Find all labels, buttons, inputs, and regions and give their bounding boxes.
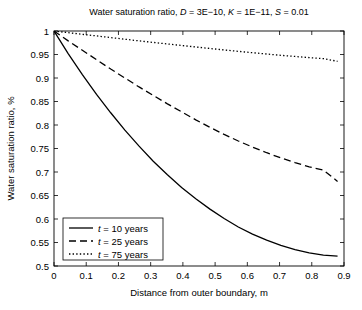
x-tick-label: 0.9 <box>337 270 350 281</box>
y-tick-label: 0.6 <box>36 214 49 225</box>
y-tick-label: 1 <box>44 26 49 37</box>
x-tick-label: 0.6 <box>241 270 254 281</box>
y-tick-label: 0.95 <box>31 49 50 60</box>
y-axis-label: Water saturation ratio, % <box>5 96 16 201</box>
y-tick-label: 0.85 <box>31 96 50 107</box>
x-tick-label: 0.8 <box>305 270 318 281</box>
y-tick-label: 0.65 <box>31 190 50 201</box>
y-tick-label: 0.5 <box>36 261 49 272</box>
y-tick-label: 0.8 <box>36 120 49 131</box>
y-tick-label: 0.55 <box>31 237 50 248</box>
x-tick-label: 0.3 <box>144 270 157 281</box>
x-axis-label: Distance from outer boundary, m <box>130 287 268 298</box>
water-saturation-chart: Water saturation ratio, D = 3E−10, K = 1… <box>0 0 362 310</box>
legend-label-3: t = 75 years <box>98 249 148 260</box>
y-tick-label: 0.9 <box>36 73 49 84</box>
chart-title: Water saturation ratio, D = 3E−10, K = 1… <box>89 7 308 17</box>
x-tick-label: 0.4 <box>176 270 189 281</box>
x-tick-label: 0.5 <box>209 270 222 281</box>
x-tick-label: 0.1 <box>80 270 93 281</box>
figure: Water saturation ratio, D = 3E−10, K = 1… <box>0 0 362 310</box>
x-tick-label: 0.7 <box>273 270 286 281</box>
x-tick-label: 0 <box>51 270 56 281</box>
legend-label-2: t = 25 years <box>98 236 148 247</box>
y-tick-label: 0.7 <box>36 167 49 178</box>
y-tick-label: 0.75 <box>31 143 50 154</box>
x-tick-label: 0.2 <box>112 270 125 281</box>
legend-label-1: t = 10 years <box>98 223 148 234</box>
